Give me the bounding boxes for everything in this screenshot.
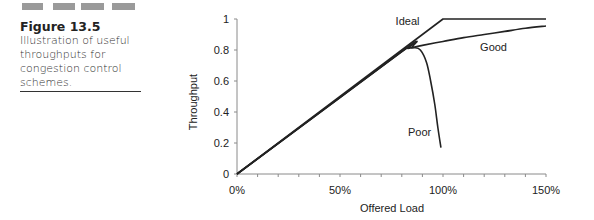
x-axis-label: Offered Load: [360, 202, 424, 214]
y-tick-label: 0.2: [214, 137, 229, 149]
series-label-good: Good: [480, 41, 507, 53]
y-tick-label: 0.8: [214, 44, 229, 56]
series-label-poor: Poor: [408, 126, 432, 138]
x-tick-label: 50%: [329, 184, 351, 196]
x-tick-label: 100%: [429, 184, 457, 196]
y-tick-label: 1: [223, 13, 229, 25]
y-tick-label: 0.6: [214, 75, 229, 87]
chart-series: IdealGoodPoor: [237, 15, 546, 174]
x-tick-label: 0%: [229, 184, 245, 196]
y-axis-label: Throughput: [187, 74, 199, 130]
chart-axes: 00.20.40.60.810%50%100%150%: [214, 13, 561, 196]
y-tick-label: 0: [223, 168, 229, 180]
y-tick-label: 0.4: [214, 106, 229, 118]
x-tick-label: 150%: [532, 184, 560, 196]
series-poor-line: [237, 42, 441, 174]
throughput-chart: 00.20.40.60.810%50%100%150% IdealGoodPoo…: [0, 0, 594, 220]
series-label-ideal: Ideal: [396, 15, 420, 27]
